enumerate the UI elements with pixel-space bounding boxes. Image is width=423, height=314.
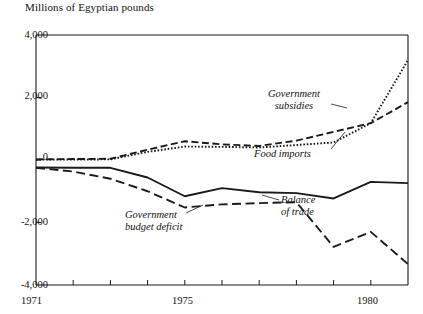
series-line-government-budget-deficit: [36, 168, 408, 264]
chart-container: Millions of Egyptian pounds 4,000 2,000 …: [0, 0, 423, 314]
leader-food-imports: [331, 132, 345, 149]
plot-area: [0, 0, 423, 314]
series-line-government-subsidies: [36, 102, 408, 159]
series-line-balance-of-trade: [36, 168, 408, 199]
leader-balance-of-trade: [262, 195, 279, 200]
series-line-food-imports: [36, 60, 408, 160]
series-lines: [36, 60, 408, 264]
leader-government-subsidies: [331, 104, 347, 108]
x-axis-ticks: [73, 280, 371, 285]
